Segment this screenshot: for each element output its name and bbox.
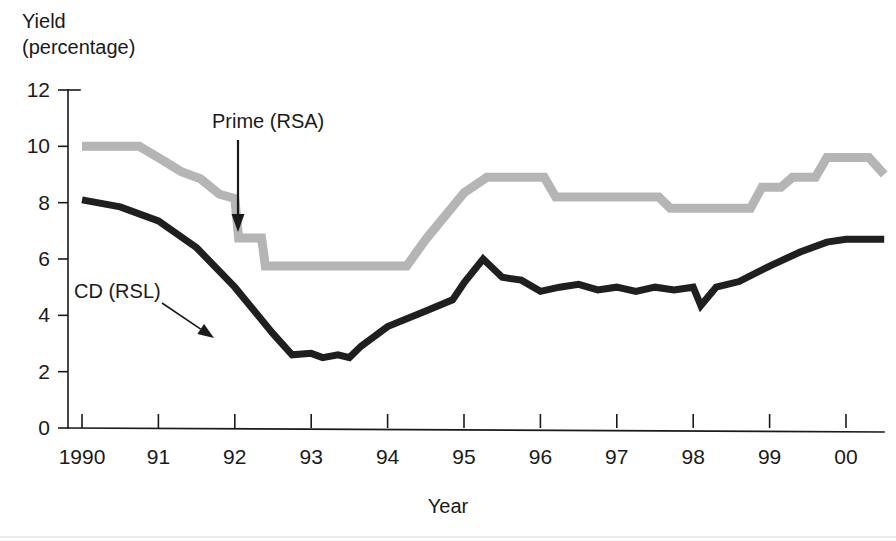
- annotation-label: Prime (RSA): [212, 110, 324, 132]
- x-tick-group: 199091929394959697989900: [59, 414, 858, 468]
- y-tick-label: 8: [38, 191, 50, 214]
- yield-line-chart: Yield (percentage) 024681012 19909192939…: [0, 0, 896, 541]
- x-tick-label: 96: [529, 445, 552, 468]
- x-axis-line: [68, 428, 884, 432]
- x-axis-title: Year: [428, 495, 469, 517]
- annotation-arrow-head: [197, 324, 214, 338]
- y-axis-caption-line2: (percentage): [22, 36, 135, 58]
- series-group: [82, 146, 884, 357]
- x-tick-label: 95: [452, 445, 475, 468]
- x-tick-label: 99: [758, 445, 781, 468]
- x-tick-label: 92: [223, 445, 246, 468]
- annotation-label: CD (RSL): [74, 280, 161, 302]
- x-tick-label: 97: [605, 445, 628, 468]
- y-tick-label: 10: [27, 134, 50, 157]
- y-tick-label: 6: [38, 247, 50, 270]
- y-tick-label: 0: [38, 416, 50, 439]
- x-tick-label: 94: [376, 445, 400, 468]
- x-tick-label: 91: [147, 445, 170, 468]
- y-tick-group: 024681012: [27, 78, 68, 439]
- chart-container: Yield (percentage) 024681012 19909192939…: [0, 0, 896, 541]
- x-tick-label: 1990: [59, 445, 106, 468]
- y-tick-label: 4: [38, 303, 50, 326]
- x-tick-label: 93: [300, 445, 323, 468]
- x-tick-label: 98: [682, 445, 705, 468]
- y-tick-label: 2: [38, 360, 50, 383]
- y-tick-label: 12: [27, 78, 50, 101]
- y-axis-caption-line1: Yield: [22, 10, 66, 32]
- annotation-arrow-shaft: [162, 303, 201, 329]
- series-line-prime-rsa: [82, 146, 884, 266]
- x-tick-label: 00: [834, 445, 857, 468]
